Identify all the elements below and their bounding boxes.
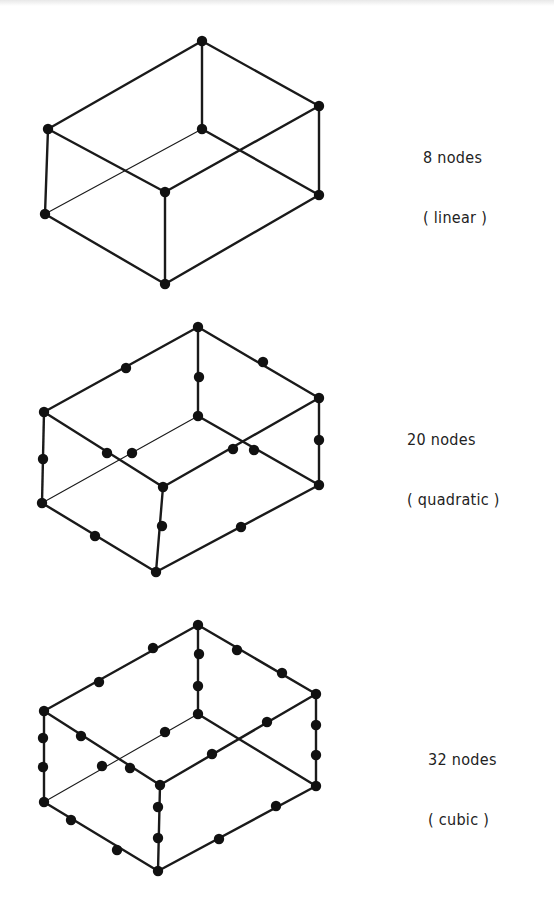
mid-side-node [258,357,268,367]
corner-node [197,36,207,46]
element-edge [198,625,316,694]
corner-node [314,190,324,200]
quadratic-element-label: 20 nodes ( quadratic ) [407,390,500,550]
mid-side-node [232,645,242,655]
element-edge [165,195,319,284]
mid-side-node [38,733,48,743]
mid-side-node [121,363,131,373]
corner-node [314,101,324,111]
element-edge [45,214,165,284]
mid-side-node [76,731,86,741]
mid-side-node [112,845,122,855]
mid-side-node [194,372,204,382]
corner-node [193,709,203,719]
mid-side-node [311,720,321,730]
corner-node [193,322,203,332]
mid-side-node [125,763,135,773]
corner-node [311,689,321,699]
element-edge [44,625,198,711]
element-edge [45,129,202,214]
element-edge [44,711,160,785]
mid-side-node [311,750,321,760]
corner-node [37,498,47,508]
corner-node [197,124,207,134]
element-edge [44,327,198,412]
mid-side-node [153,802,163,812]
node-count-label: 20 nodes [407,430,500,450]
mid-side-node [228,444,238,454]
element-edge [198,714,316,786]
mid-side-node [214,834,224,844]
element-type-label: ( cubic ) [428,810,497,830]
corner-node [40,209,50,219]
node-count-label: 32 nodes [428,750,497,770]
mid-side-node [97,761,107,771]
mid-side-node [194,649,204,659]
corner-node [155,780,165,790]
element-edge [163,398,319,487]
corner-node [160,187,170,197]
mid-side-node [262,717,272,727]
linear-hexahedron [40,36,324,289]
node-count-label: 8 nodes [423,148,487,168]
corner-node [311,781,321,791]
mid-side-node [207,749,217,759]
element-edge [158,785,160,871]
mid-side-node [94,677,104,687]
mid-side-node [271,801,281,811]
corner-node [158,482,168,492]
mid-side-node [102,448,112,458]
mid-side-node [127,448,137,458]
corner-node [43,124,53,134]
cubic-hexahedron [38,620,321,876]
element-edge [158,786,316,871]
element-edge [202,41,319,106]
corner-node [153,866,163,876]
mid-side-node [160,727,170,737]
mid-side-node [38,762,48,772]
corner-node [193,411,203,421]
mid-side-node [148,643,158,653]
element-edge [48,41,202,129]
corner-node [160,279,170,289]
cubic-element-label: 32 nodes ( cubic ) [428,710,497,870]
mid-side-node [90,531,100,541]
element-edge [45,129,48,214]
mid-side-node [153,833,163,843]
mid-side-node [193,681,203,691]
element-edge [44,802,158,871]
linear-element-label: 8 nodes ( linear ) [423,108,487,268]
corner-node [314,480,324,490]
mid-side-node [66,815,76,825]
corner-node [39,797,49,807]
corner-node [39,407,49,417]
element-edge [165,106,319,192]
corner-node [39,706,49,716]
corner-node [193,620,203,630]
quadratic-hexahedron [37,322,324,577]
element-edge [48,129,165,192]
element-type-label: ( quadratic ) [407,490,500,510]
element-type-label: ( linear ) [423,208,487,228]
mid-side-node [38,454,48,464]
corner-node [314,393,324,403]
element-edge [44,714,198,802]
mid-side-node [249,445,259,455]
figure-canvas: 8 nodes ( linear ) 20 nodes ( quadratic … [0,0,554,898]
mid-side-node [277,668,287,678]
corner-node [151,567,161,577]
mid-side-node [157,521,167,531]
mid-side-node [236,522,246,532]
mid-side-node [314,435,324,445]
